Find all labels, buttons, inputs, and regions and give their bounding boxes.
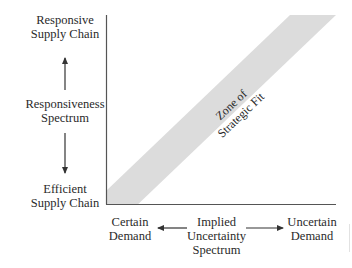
efficient-supply-chain-label: Efficient Supply Chain	[0, 182, 130, 210]
responsive-supply-chain-label: Responsive Supply Chain	[0, 13, 130, 41]
uncertain-demand-label: Uncertain Demand	[279, 215, 345, 243]
responsiveness-spectrum-label: Responsiveness Spectrum	[0, 97, 130, 125]
implied-uncertainty-spectrum-label: Implied Uncertainty Spectrum	[183, 215, 250, 257]
certain-demand-label: Certain Demand	[100, 215, 160, 243]
